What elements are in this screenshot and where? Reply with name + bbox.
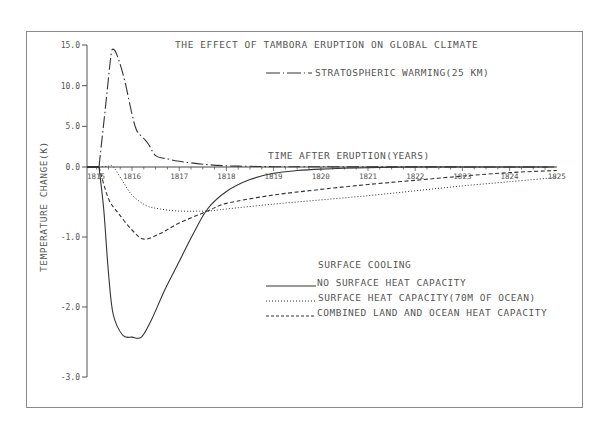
x-axis-label: TIME AFTER ERUPTION(YEARS) — [268, 150, 430, 161]
y-tick-label: -2.0 — [61, 303, 80, 312]
x-tick-label: 1817 — [170, 172, 188, 181]
x-tick-label: 1818 — [217, 172, 236, 181]
legend-surface-cooling: SURFACE COOLING NO SURFACE HEAT CAPACITY… — [266, 259, 547, 318]
chart-plot: THE EFFECT OF TAMBORA ERUPTION ON GLOBAL… — [0, 0, 608, 432]
x-tick-label: 1825 — [548, 172, 566, 181]
y-ticks: 15.010.05.00.0-1.0-2.0-3.0 — [61, 41, 87, 382]
y-axis-label: TEMPERATURE CHANGE(K) — [38, 141, 49, 272]
x-tick-label: 1820 — [312, 172, 331, 181]
legend-heading: SURFACE COOLING — [318, 259, 411, 270]
legend-label-no-heat-capacity: NO SURFACE HEAT CAPACITY — [317, 277, 466, 288]
x-tick-label: 1822 — [406, 172, 424, 181]
y-tick-label: -1.0 — [61, 233, 80, 242]
legend-label-ocean-heat-capacity: SURFACE HEAT CAPACITY(70M OF OCEAN) — [318, 292, 536, 303]
y-tick-label: 5.0 — [66, 122, 81, 131]
y-tick-label: 0.0 — [66, 163, 81, 172]
chart-title: THE EFFECT OF TAMBORA ERUPTION ON GLOBAL… — [175, 39, 478, 50]
legend-label-stratospheric: STRATOSPHERIC WARMING(25 KM) — [315, 67, 489, 78]
y-tick-label: 10.0 — [61, 82, 80, 91]
y-tick-label: 15.0 — [61, 41, 80, 50]
y-tick-label: -3.0 — [61, 373, 80, 382]
x-tick-label: 1821 — [359, 172, 377, 181]
x-tick-label: 1816 — [123, 172, 142, 181]
x-tick-label: 1823 — [453, 172, 471, 181]
legend-label-combined-heat-capacity: COMBINED LAND AND OCEAN HEAT CAPACITY — [317, 307, 547, 318]
legend-stratospheric: STRATOSPHERIC WARMING(25 KM) — [266, 67, 489, 78]
